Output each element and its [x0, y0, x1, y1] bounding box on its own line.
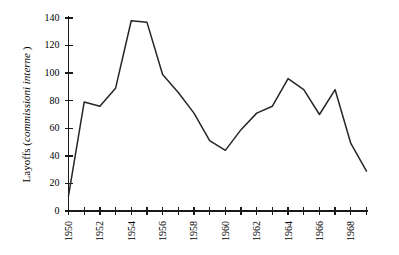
x-tick-label: 1956	[157, 221, 168, 241]
y-tick-label: 0	[55, 205, 60, 216]
x-tick-label: 1962	[251, 221, 262, 241]
chart-plot-area: Layoffs (commissioni interne ) 020406080…	[0, 0, 399, 255]
y-tick-label: 120	[45, 39, 60, 50]
x-tick-label: 1968	[345, 221, 356, 241]
x-tick-label: 1952	[94, 221, 105, 241]
y-tick-label: 140	[45, 12, 60, 23]
y-tick-label: 100	[45, 67, 60, 78]
data-series-group	[69, 21, 367, 196]
line-chart: Layoffs (commissioni interne ) 020406080…	[0, 0, 399, 255]
x-tick-label: 1966	[314, 221, 325, 241]
x-tick-label: 1964	[283, 221, 294, 241]
x-axis-ticks: 1950195219541956195819601962196419661968	[63, 207, 367, 241]
y-tick-label: 60	[50, 122, 60, 133]
data-series-line	[69, 21, 367, 196]
y-tick-label: 40	[50, 150, 60, 161]
x-tick-label: 1958	[188, 221, 199, 241]
y-tick-label: 20	[50, 177, 60, 188]
y-axis-title: Layoffs (commissioni interne )	[20, 46, 33, 182]
y-axis-title-text: Layoffs (commissioni interne )	[20, 46, 33, 182]
y-tick-label: 80	[50, 95, 60, 106]
x-tick-label: 1954	[126, 221, 137, 241]
x-tick-label: 1950	[63, 221, 74, 241]
x-tick-label: 1960	[220, 221, 231, 241]
axis-lines	[69, 16, 368, 211]
